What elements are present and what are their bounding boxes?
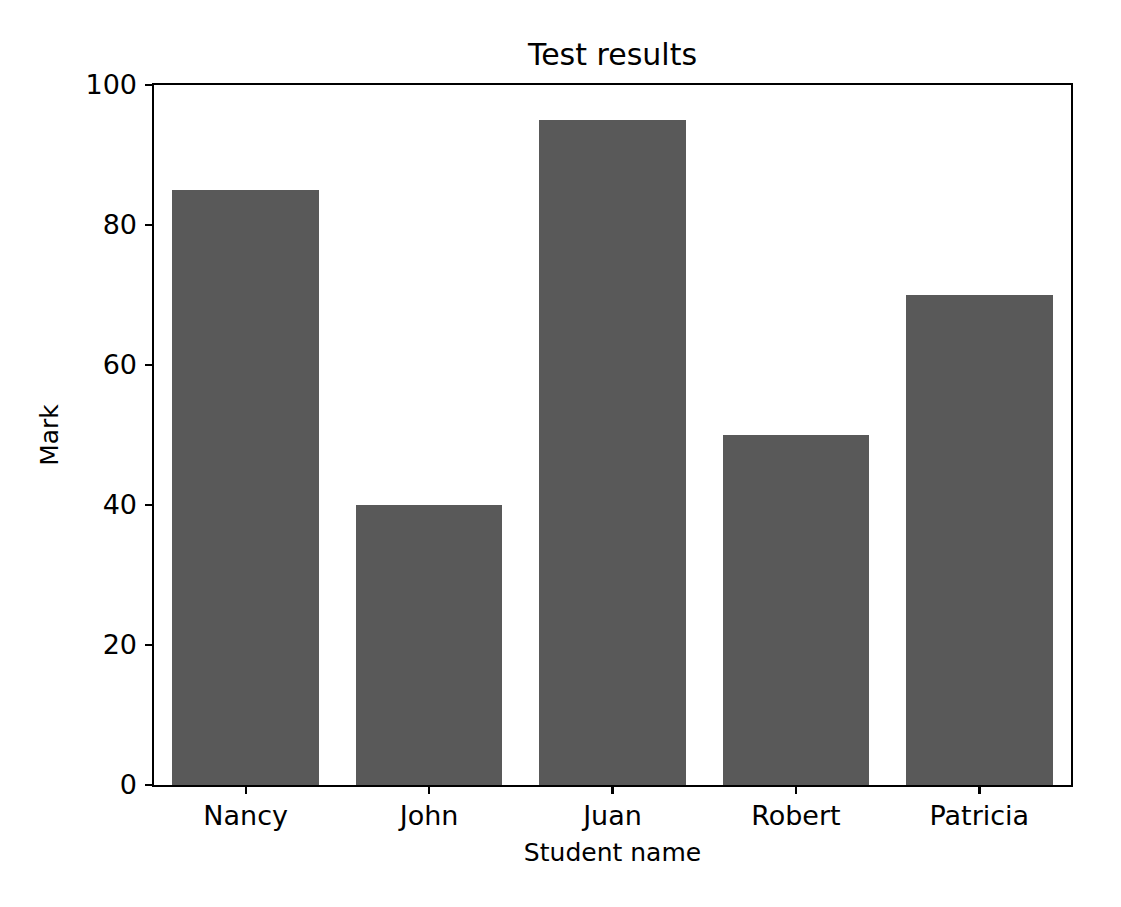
y-tick-mark bbox=[145, 364, 154, 366]
chart-title: Test results bbox=[152, 38, 1073, 72]
x-tick-mark bbox=[245, 785, 247, 794]
bar-chart-figure: Test results Mark 020406080100 NancyJohn… bbox=[0, 0, 1121, 907]
y-tick-label: 100 bbox=[17, 68, 137, 102]
plot-area: Mark 020406080100 NancyJohnJuanRobertPat… bbox=[152, 83, 1073, 787]
x-tick-mark bbox=[795, 785, 797, 794]
bars-layer bbox=[154, 85, 1071, 785]
bar bbox=[356, 505, 503, 785]
x-tick-mark bbox=[978, 785, 980, 794]
bar bbox=[539, 120, 686, 785]
y-tick-label: 60 bbox=[17, 348, 137, 382]
y-tick-mark bbox=[145, 224, 154, 226]
y-tick-mark bbox=[145, 784, 154, 786]
bar bbox=[906, 295, 1053, 785]
bar bbox=[172, 190, 319, 785]
y-tick-mark bbox=[145, 504, 154, 506]
y-tick-mark bbox=[145, 84, 154, 86]
x-tick-label: Patricia bbox=[869, 799, 1089, 833]
x-axis-label: Student name bbox=[152, 838, 1073, 868]
y-tick-label: 80 bbox=[17, 208, 137, 242]
y-tick-label: 20 bbox=[17, 628, 137, 662]
x-tick-mark bbox=[428, 785, 430, 794]
bar bbox=[723, 435, 870, 785]
y-tick-label: 0 bbox=[17, 768, 137, 802]
y-tick-label: 40 bbox=[17, 488, 137, 522]
x-tick-mark bbox=[611, 785, 613, 794]
y-tick-mark bbox=[145, 644, 154, 646]
